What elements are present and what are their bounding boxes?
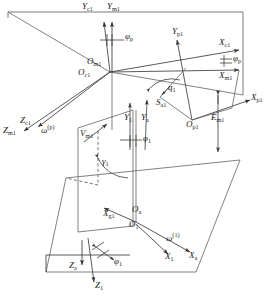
- label-omega-1: ω(1): [166, 234, 180, 243]
- base-axes-group: [46, 208, 190, 282]
- label-y-p1: Yp1: [172, 27, 183, 36]
- label-z-a: Za: [69, 261, 77, 270]
- label-s-a1: Sa1: [156, 98, 166, 107]
- label-x-m1: Xm1: [219, 71, 232, 80]
- label-y-c1: Yc1: [82, 2, 93, 11]
- label-o-1: O1: [129, 220, 139, 229]
- label-o-p1: Op1: [186, 120, 199, 129]
- kinematic-frame-diagram: Yc1 Ym1 φp Yp1 Xc1 φp Xm1 Xp1 Om1 Oc1 q1…: [0, 0, 276, 298]
- label-phi-p-top: φp: [125, 32, 133, 41]
- label-v-m1: Vm1: [80, 129, 93, 138]
- label-o-m1: Om1: [87, 57, 101, 66]
- label-e-m1: Em1: [211, 113, 224, 122]
- upper-plate-quadrilateral: [8, 12, 243, 95]
- label-phi-p-right: φp: [233, 54, 241, 63]
- label-y-a: Ya: [141, 113, 149, 122]
- label-x-a: Xa: [189, 251, 197, 260]
- label-z-m1: Zm1: [3, 126, 16, 135]
- label-o-c1: Oc1: [78, 68, 90, 77]
- label-phi-1-bottom: φ1: [114, 257, 122, 266]
- label-o-a: Oa: [132, 205, 141, 214]
- central-vertical-post: [112, 72, 136, 222]
- diagram-vector-canvas: [0, 0, 276, 298]
- label-x-c1: Xc1: [219, 38, 230, 47]
- label-y-1: Y1: [124, 113, 132, 122]
- label-x-p1: Xp1: [251, 93, 263, 102]
- phi1-bottom-marks: [92, 242, 114, 260]
- label-x-g1: Xg1: [103, 209, 115, 218]
- dashed-hidden-edges: [66, 131, 98, 185]
- label-z-1: Z1: [95, 281, 103, 290]
- label-phi-1-middle: φ1: [143, 134, 151, 143]
- label-y-m1: Ym1: [107, 2, 120, 11]
- platform-axes-p1: [177, 40, 250, 120]
- label-z-c1: Zc1: [20, 116, 31, 125]
- label-gamma-1: γ1: [102, 157, 109, 166]
- phi1-middle-marks: [120, 135, 142, 147]
- label-x-1: X1: [165, 252, 174, 261]
- label-omega-p: ω(p): [41, 126, 55, 135]
- upper-frame-outline: [8, 12, 243, 95]
- label-q-1: q1: [168, 83, 176, 92]
